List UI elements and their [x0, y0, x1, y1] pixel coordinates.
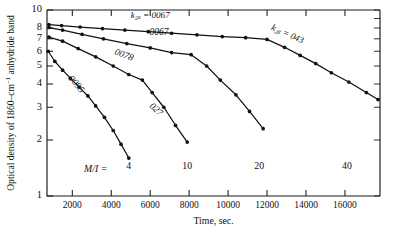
x-tick-label-2000: 2000 — [63, 200, 82, 210]
series-mi-4-point-9 — [119, 142, 123, 146]
series-mi-4-point-0 — [46, 49, 50, 53]
series-mi-40-line — [49, 25, 378, 100]
svg-text:Optical density of 1860–cm–1 a: Optical density of 1860–cm–1 anhydride b… — [4, 15, 16, 191]
y-tick-label-7: 7 — [37, 32, 42, 43]
series-mi-10-point-3 — [94, 55, 98, 59]
y-tick-label-1: 1 — [37, 189, 42, 200]
series-mi-10-point-0 — [47, 35, 51, 39]
x-tick-label-12000: 12000 — [255, 200, 279, 210]
series-mi-20-point-4 — [125, 42, 129, 46]
series-mi-10-point-1 — [61, 39, 65, 43]
series-mi-40-point-14 — [329, 71, 333, 75]
series-mi-10-point-7 — [150, 91, 154, 95]
k2a-annotation: k₂ₐ = 0067 — [131, 10, 171, 20]
series-mi-20-point-12 — [261, 127, 265, 131]
series-mi-10-point-5 — [127, 73, 131, 77]
series-mi-20-point-10 — [234, 93, 238, 97]
series-mi-40-point-11 — [283, 45, 287, 49]
series-mi-40-point-12 — [298, 54, 302, 58]
series-mi-4-end-label: 4 — [126, 160, 131, 171]
series-mi-20-point-9 — [218, 78, 222, 82]
mi-annotation: M/I = — [83, 163, 107, 174]
y-axis-title: Optical density of 1860–cm–1 anhydride b… — [4, 15, 16, 191]
x-tick-label-8000: 8000 — [180, 200, 199, 210]
series-mi-20-point-5 — [148, 46, 152, 50]
k2b-annotation: k₂ᵦ = 043 — [270, 22, 306, 45]
series-mi-40-point-3 — [101, 27, 105, 31]
series-mi-40-point-6 — [170, 31, 174, 35]
series-mi-10-label: 027 — [148, 100, 167, 119]
series-mi-10-point-4 — [111, 64, 115, 68]
y-tick-label-3: 3 — [37, 101, 42, 112]
series-mi-40-label: 0067 — [149, 26, 169, 37]
series-mi-20-point-8 — [205, 64, 209, 68]
series-mi-40-point-2 — [78, 25, 82, 29]
optical-density-vs-time-chart: 1234567810200040006000800010000120001400… — [0, 0, 393, 243]
y-tick-label-2: 2 — [37, 133, 42, 144]
x-tick-label-6000: 6000 — [141, 200, 160, 210]
series-mi-10-point-10 — [185, 140, 189, 144]
chart-figure: 1234567810200040006000800010000120001400… — [0, 0, 393, 243]
series-mi-20-point-6 — [170, 51, 174, 55]
series-mi-20-point-3 — [102, 37, 106, 41]
series-mi-4-point-8 — [111, 129, 115, 133]
series-mi-40-end-label: 40 — [342, 160, 352, 171]
x-tick-label-14000: 14000 — [294, 200, 318, 210]
y-tick-label-10: 10 — [32, 3, 43, 14]
series-mi-20-point-11 — [248, 110, 252, 114]
x-tick-label-4000: 4000 — [102, 200, 121, 210]
y-tick-label-8: 8 — [37, 21, 42, 32]
series-mi-4-point-2 — [61, 68, 65, 72]
y-tick-label-5: 5 — [37, 59, 42, 70]
series-mi-20-point-7 — [189, 53, 193, 57]
series-mi-40-point-15 — [347, 80, 351, 84]
series-mi-20-point-2 — [80, 32, 84, 36]
y-tick-label-6: 6 — [37, 45, 42, 56]
series-mi-10-point-9 — [174, 123, 178, 127]
series-mi-4-point-5 — [86, 94, 90, 98]
series-mi-4-point-6 — [94, 104, 98, 108]
series-mi-40-point-10 — [265, 38, 269, 42]
x-tick-label-16000: 16000 — [333, 200, 357, 210]
series-mi-40-point-4 — [123, 28, 127, 32]
series-mi-40-point-1 — [60, 24, 64, 28]
series-mi-4-point-1 — [53, 59, 57, 63]
series-mi-40-point-7 — [195, 33, 199, 37]
series-mi-10-point-6 — [141, 78, 145, 82]
y-tick-label-4: 4 — [37, 77, 43, 88]
series-mi-40-point-17 — [376, 98, 380, 102]
series-mi-40-point-16 — [365, 91, 369, 95]
series-mi-10-end-label: 10 — [182, 160, 192, 171]
series-mi-20-point-0 — [47, 26, 51, 30]
x-axis-title: Time, sec. — [193, 215, 233, 226]
series-mi-20-label: 0078 — [113, 46, 135, 63]
series-mi-40-point-9 — [244, 36, 248, 40]
series-mi-20-end-label: 20 — [254, 160, 264, 171]
series-mi-40-point-8 — [220, 35, 224, 39]
series-mi-20-point-1 — [61, 28, 65, 32]
series-mi-40-point-13 — [314, 62, 318, 66]
series-mi-10-point-2 — [76, 47, 80, 51]
x-tick-label-10000: 10000 — [216, 200, 240, 210]
series-mi-4-point-7 — [103, 115, 107, 119]
